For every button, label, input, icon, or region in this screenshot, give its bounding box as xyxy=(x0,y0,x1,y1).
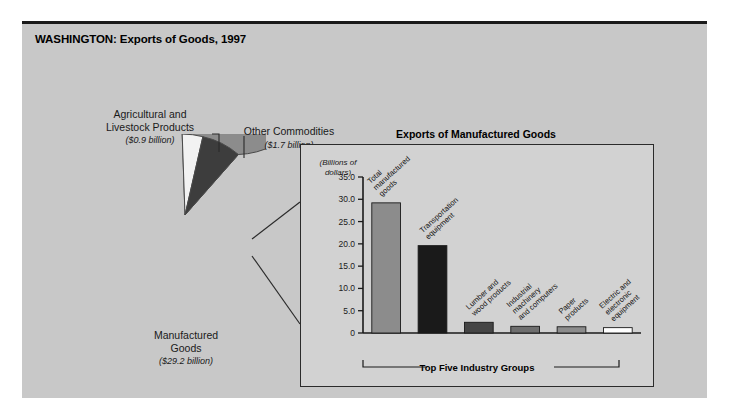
x-axis-category-label: Lumber andwood products xyxy=(463,272,512,319)
bar xyxy=(557,327,586,333)
bar xyxy=(372,203,401,333)
pie-label-manufactured-line1: Manufactured xyxy=(154,329,218,341)
y-axis-tick-label: 0 xyxy=(350,328,355,338)
y-axis-tick-label: 10.0 xyxy=(338,283,355,293)
y-axis-tick-label: 5.0 xyxy=(343,306,355,316)
pie-label-manufactured-amount: ($29.2 billion) xyxy=(126,355,246,368)
pie-label-agricultural-line2: Livestock Products xyxy=(106,121,194,133)
inset-chart-title: Exports of Manufactured Goods xyxy=(300,128,652,140)
x-axis-category-label: Paperproducts xyxy=(557,290,591,323)
pie-label-manufactured: Manufactured Goods ($29.2 billion) xyxy=(126,329,246,368)
x-axis-category-label: Transportationequipment xyxy=(418,195,466,241)
y-axis-tick-label: 20.0 xyxy=(338,239,355,249)
bar xyxy=(603,328,632,333)
x-axis-category-label: Totalmanufacturedgoods xyxy=(366,148,418,199)
pie-chart-area: Agricultural and Livestock Products ($0.… xyxy=(22,24,342,398)
pie-chart xyxy=(104,134,266,296)
bar xyxy=(511,326,540,333)
bar xyxy=(464,322,493,333)
x-axis-category-label: Industrialmachineryand computers xyxy=(505,269,560,322)
pie-label-agricultural-amount: ($0.9 billion) xyxy=(82,134,218,147)
x-axis-group-label: Top Five Industry Groups xyxy=(301,362,653,373)
pie-label-agricultural-line1: Agricultural and xyxy=(114,108,187,120)
y-axis-tick-label: 30.0 xyxy=(338,194,355,204)
pie-label-agricultural: Agricultural and Livestock Products ($0.… xyxy=(82,108,218,147)
x-axis-category-label: Electric andelectronicequipment xyxy=(597,277,644,323)
y-axis-tick-label: 25.0 xyxy=(338,217,355,227)
figure-panel: WASHINGTON: Exports of Goods, 1997 Agric… xyxy=(22,21,707,398)
bar xyxy=(418,246,447,333)
y-axis-tick-label: 15.0 xyxy=(338,261,355,271)
inset-chart-panel: (Billions of dollars) 35.030.025.020.015… xyxy=(300,144,654,387)
y-axis-tick-label: 35.0 xyxy=(338,172,355,182)
pie-label-manufactured-line2: Goods xyxy=(171,342,202,354)
bar-chart-plot: 35.030.025.020.015.010.05.00Totalmanufac… xyxy=(301,145,653,386)
